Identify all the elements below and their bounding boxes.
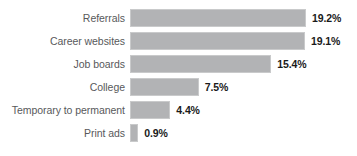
value-label-temporary-to-permanent: 4.4% bbox=[176, 101, 200, 119]
category-label-referrals: Referrals bbox=[0, 9, 130, 27]
bar-college bbox=[130, 78, 199, 96]
value-label-career-websites: 19.1% bbox=[311, 32, 340, 50]
category-label-job-boards: Job boards bbox=[0, 55, 130, 73]
bar-job-boards bbox=[130, 55, 271, 73]
bar-track: 19.1% bbox=[130, 32, 357, 50]
chart-bar-row: Referrals 19.2% bbox=[0, 9, 357, 27]
category-label-college: College bbox=[0, 78, 130, 96]
bar-track: 0.9% bbox=[130, 124, 357, 142]
category-label-temporary-to-permanent: Temporary to permanent bbox=[0, 101, 130, 119]
value-label-referrals: 19.2% bbox=[312, 9, 341, 27]
value-label-print-ads: 0.9% bbox=[144, 124, 168, 142]
bar-temporary-to-permanent bbox=[130, 101, 170, 119]
chart-bar-row: Temporary to permanent 4.4% bbox=[0, 101, 357, 119]
bar-referrals bbox=[130, 9, 306, 27]
bar-career-websites bbox=[130, 32, 305, 50]
chart-bar-row: Career websites 19.1% bbox=[0, 32, 357, 50]
value-label-job-boards: 15.4% bbox=[277, 55, 306, 73]
bar-track: 15.4% bbox=[130, 55, 357, 73]
category-label-career-websites: Career websites bbox=[0, 32, 130, 50]
bar-chart: Referrals 19.2% Career websites 19.1% Jo… bbox=[0, 0, 357, 156]
value-label-college: 7.5% bbox=[205, 78, 229, 96]
bar-print-ads bbox=[130, 124, 138, 142]
bar-track: 7.5% bbox=[130, 78, 357, 96]
bar-track: 19.2% bbox=[130, 9, 357, 27]
bar-track: 4.4% bbox=[130, 101, 357, 119]
category-label-print-ads: Print ads bbox=[0, 124, 130, 142]
chart-bar-row: Job boards 15.4% bbox=[0, 55, 357, 73]
chart-bar-row: Print ads 0.9% bbox=[0, 124, 357, 142]
chart-bar-row: College 7.5% bbox=[0, 78, 357, 96]
